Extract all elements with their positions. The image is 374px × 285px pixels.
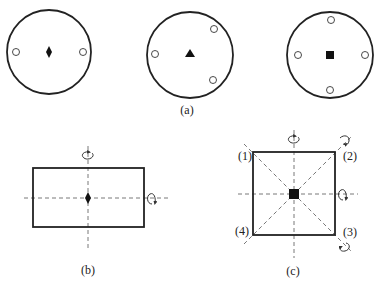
site-circle xyxy=(152,51,159,58)
site-circle xyxy=(13,49,20,56)
circle-threefold xyxy=(147,12,233,98)
site-circle xyxy=(211,26,218,33)
rotation-arrow-icon xyxy=(148,194,156,204)
diamond-icon xyxy=(85,192,91,204)
rotation-arrow-icon xyxy=(339,190,347,200)
square-icon xyxy=(289,189,299,199)
panel-b-label: (b) xyxy=(81,263,95,277)
site-circle xyxy=(327,87,334,94)
symmetry-diagram: (a) (b) (1) (2) (3) (4) (c) xyxy=(0,0,374,285)
site-circle xyxy=(362,52,369,59)
panel-a-label: (a) xyxy=(180,103,193,117)
site-circle xyxy=(295,52,302,59)
panel-b-rectangle xyxy=(24,146,168,248)
site-circle xyxy=(210,77,217,84)
site-circle xyxy=(80,49,87,56)
panel-c-label: (c) xyxy=(286,264,299,278)
corner-label-4: (4) xyxy=(235,224,249,238)
triangle-icon xyxy=(185,49,195,57)
circle-twofold xyxy=(7,10,91,94)
circle-fourfold xyxy=(287,12,373,98)
diamond-icon xyxy=(46,46,52,58)
panel-c-square xyxy=(238,130,358,258)
corner-label-3: (3) xyxy=(343,225,357,239)
site-circle xyxy=(328,17,335,24)
corner-label-2: (2) xyxy=(343,149,357,163)
corner-label-1: (1) xyxy=(238,149,252,163)
square-icon xyxy=(326,51,334,59)
